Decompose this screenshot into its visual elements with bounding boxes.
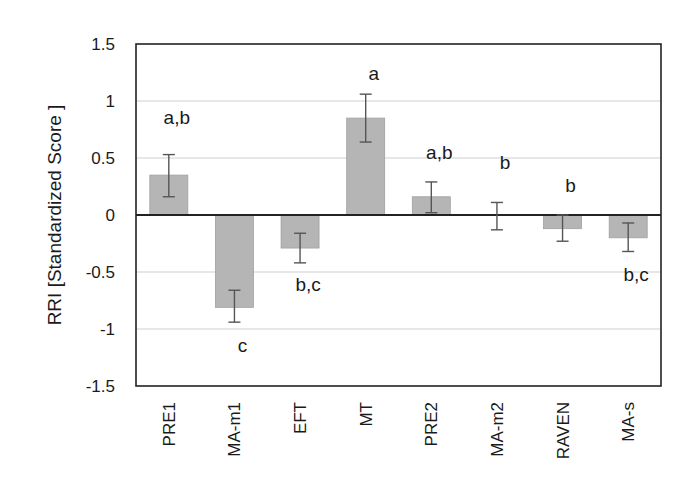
x-category-label: EFT xyxy=(291,402,310,434)
significance-label: a,b xyxy=(426,142,452,163)
y-tick-label: -1 xyxy=(100,320,115,339)
x-category-label: MA-s xyxy=(619,402,638,442)
significance-label: b,c xyxy=(295,274,320,295)
x-category-label: MA-m2 xyxy=(488,402,507,457)
x-category-label: PRE1 xyxy=(160,402,179,446)
y-tick-label: 1.5 xyxy=(91,35,115,54)
significance-label: b xyxy=(500,152,511,173)
y-axis-title: RRI [Standardized Score ] xyxy=(44,105,65,326)
y-axis-tick-labels: 1.510.50-0.5-1-1.5 xyxy=(86,35,115,396)
y-tick-label: 0.5 xyxy=(91,149,115,168)
y-tick-label: -1.5 xyxy=(86,377,115,396)
significance-label: b xyxy=(565,175,576,196)
x-category-label: MA-m1 xyxy=(225,402,244,457)
x-category-label: RAVEN xyxy=(554,402,573,459)
x-axis-category-labels: PRE1MA-m1EFTMTPRE2MA-m2RAVENMA-s xyxy=(160,402,638,459)
x-category-label: PRE2 xyxy=(422,402,441,446)
y-tick-label: 0 xyxy=(106,206,115,225)
significance-annotations: a,bcb,caa,bbbb,c xyxy=(164,63,649,356)
y-tick-label: -0.5 xyxy=(86,263,115,282)
x-category-label: MT xyxy=(357,402,376,427)
error-bar-ma-m2 xyxy=(491,202,503,229)
bar-chart: 1.510.50-0.5-1-1.5 PRE1MA-m1EFTMTPRE2MA-… xyxy=(0,0,695,492)
bars xyxy=(150,118,647,307)
y-tick-label: 1 xyxy=(106,92,115,111)
significance-label: b,c xyxy=(624,264,649,285)
significance-label: c xyxy=(238,335,248,356)
significance-label: a xyxy=(368,63,379,84)
significance-label: a,b xyxy=(164,107,190,128)
